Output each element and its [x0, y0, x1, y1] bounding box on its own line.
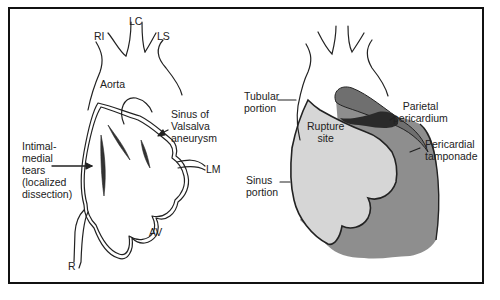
- right-panel-drawing: [278, 26, 439, 259]
- label-pericardial-tamponade: Pericardial tamponade: [425, 138, 478, 162]
- label-ls: LS: [157, 30, 170, 42]
- right-aorta-vessels: [318, 26, 364, 54]
- label-sinus-of-valsalva-aneurysm: Sinus of Valsalva aneurysm: [171, 108, 217, 144]
- label-lm: LM: [206, 163, 221, 175]
- lm-coronary: [177, 160, 205, 166]
- label-r: R: [68, 260, 76, 272]
- ri-vessel: [108, 33, 126, 56]
- ls-vessel: [145, 33, 156, 52]
- ls-outer: [158, 40, 182, 95]
- right-aorta-right-wall: [368, 40, 389, 96]
- label-av: AV: [149, 226, 162, 238]
- aorta-left-wall: [88, 42, 102, 110]
- label-sinus-portion: Sinus portion: [246, 174, 278, 198]
- label-tubular-portion: Tubular portion: [244, 90, 279, 114]
- label-ri: RI: [94, 30, 105, 42]
- label-rupture-site: Rupture site: [307, 120, 344, 144]
- lc-vessel-right: [142, 22, 145, 52]
- label-intimal-medial-tears: Intimal- medial tears (localized dissect…: [22, 140, 72, 200]
- aneurysm-inner-wall: [84, 107, 185, 255]
- intimal-tears: [101, 125, 150, 196]
- lc-vessel-left: [126, 22, 131, 56]
- label-aorta: Aorta: [100, 78, 125, 90]
- label-lc: LC: [129, 15, 142, 27]
- label-parietal-pericardium: Parietal pericardium: [393, 100, 448, 124]
- r-coronary-2: [79, 212, 88, 268]
- left-panel-drawing: [52, 22, 205, 268]
